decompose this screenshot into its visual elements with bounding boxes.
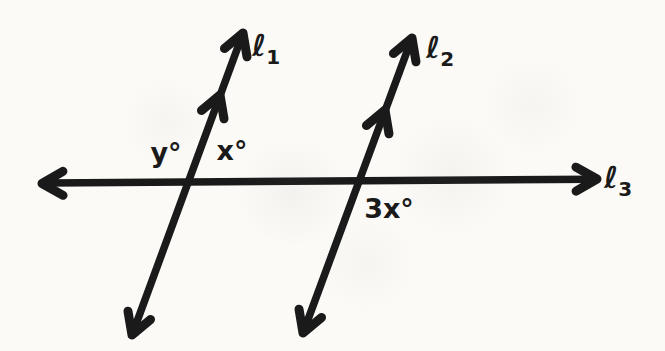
line-l3 bbox=[42, 167, 597, 195]
label-line-l1: ℓ1 bbox=[251, 28, 280, 69]
label-l2-base: ℓ bbox=[425, 30, 440, 65]
angle-label-y: y° bbox=[150, 137, 181, 168]
label-l1-base: ℓ bbox=[251, 28, 266, 63]
parallel-lines-transversal-diagram: ℓ1 ℓ2 ℓ3 y° x° 3x° bbox=[0, 0, 665, 351]
label-l3-subscript: 3 bbox=[618, 177, 632, 201]
label-l3-base: ℓ bbox=[603, 160, 618, 195]
label-l1-subscript: 1 bbox=[266, 45, 280, 69]
angle-label-3x: 3x° bbox=[364, 193, 414, 224]
geometry-figure: ℓ1 ℓ2 ℓ3 y° x° 3x° bbox=[0, 0, 665, 351]
label-l2-subscript: 2 bbox=[440, 47, 454, 71]
line-l2 bbox=[292, 34, 424, 337]
label-line-l2: ℓ2 bbox=[425, 30, 454, 71]
angle-label-x: x° bbox=[217, 135, 248, 166]
line-l3-shaft bbox=[48, 179, 592, 183]
label-line-l3: ℓ3 bbox=[603, 160, 632, 201]
line-l2-shaft bbox=[307, 47, 409, 323]
